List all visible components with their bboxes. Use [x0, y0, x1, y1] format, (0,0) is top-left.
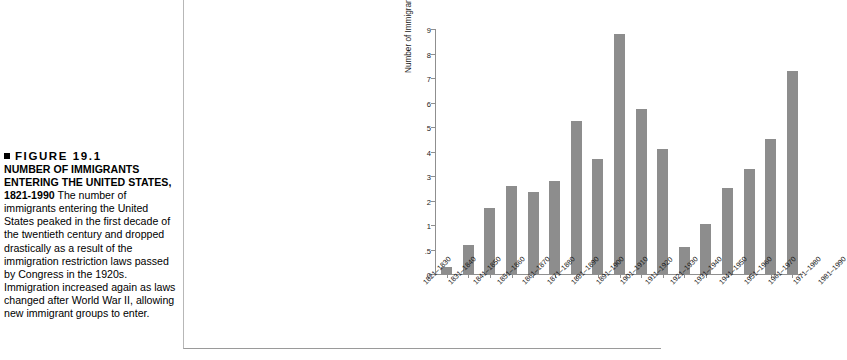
bar — [787, 71, 798, 274]
bar-slot — [609, 30, 631, 274]
immigration-bar-chart: Number of Immigrants (millions) 0.512345… — [408, 26, 828, 336]
bar — [614, 34, 625, 274]
y-axis-tick-label: 1 — [427, 222, 431, 231]
bar-slot — [566, 30, 588, 274]
bar-slot — [458, 30, 480, 274]
plot-area: 0.5123456789 — [435, 30, 803, 275]
bar — [722, 188, 733, 274]
bar — [571, 121, 582, 274]
x-label-slot: 1891–1900 — [581, 276, 606, 336]
bar-slot — [674, 30, 696, 274]
y-axis-tick-label: .5 — [425, 246, 431, 255]
bar-slot — [544, 30, 566, 274]
x-label-slot: 1911–1920 — [631, 276, 656, 336]
x-label-slot: 1881–1890 — [557, 276, 582, 336]
bar-slot — [717, 30, 739, 274]
caption-body: NUMBER OF IMMIGRANTS ENTERING THE UNITED… — [4, 163, 180, 320]
x-label-slot: 1941–1950 — [705, 276, 730, 336]
x-label-slot: 1841–1850 — [458, 276, 483, 336]
bar-slot — [630, 30, 652, 274]
figure-number: FIGURE 19.1 — [15, 150, 102, 162]
bar — [636, 109, 647, 274]
caption-description: The number of immigrants entering the Un… — [4, 189, 175, 319]
x-axis-labels: 1821–18301831–18401841–18501851–18601861… — [409, 276, 828, 336]
square-bullet-icon — [4, 153, 10, 159]
x-label-slot: 1951–1960 — [729, 276, 754, 336]
bar-slot — [652, 30, 674, 274]
x-label-slot: 1981–1990 — [803, 276, 828, 336]
y-axis-tick-label: 8 — [427, 50, 431, 59]
bar-slot — [695, 30, 717, 274]
bar-slot — [782, 30, 804, 274]
y-axis-tick-label: 7 — [427, 75, 431, 84]
x-label-slot: 1931–1940 — [680, 276, 705, 336]
x-label-slot: 1961–1970 — [754, 276, 779, 336]
y-axis-tick-label: 6 — [427, 99, 431, 108]
y-axis-tick-label: 3 — [427, 173, 431, 182]
x-label-slot: 1831–1840 — [434, 276, 459, 336]
bar-slot — [760, 30, 782, 274]
y-axis-tick-label: 9 — [427, 26, 431, 35]
bar-slot — [522, 30, 544, 274]
bar-series — [436, 30, 803, 274]
x-label-slot: 1821–1830 — [409, 276, 434, 336]
x-label-slot: 1971–1980 — [779, 276, 804, 336]
x-label-slot: 1861–1870 — [508, 276, 533, 336]
x-label-slot: 1871–1880 — [532, 276, 557, 336]
x-label-slot: 1901–1910 — [606, 276, 631, 336]
bar-slot — [738, 30, 760, 274]
y-axis-tick-label: 2 — [427, 197, 431, 206]
figure-caption: FIGURE 19.1 NUMBER OF IMMIGRANTS ENTERIN… — [4, 150, 180, 320]
bar-slot — [436, 30, 458, 274]
y-axis-tick-label: 5 — [427, 124, 431, 133]
bar-slot — [587, 30, 609, 274]
figure-label-line: FIGURE 19.1 — [4, 150, 180, 162]
figure-panel: Number of Immigrants (millions) 0.512345… — [183, 0, 661, 349]
bar-slot — [501, 30, 523, 274]
y-axis-label: Number of Immigrants (millions) — [404, 0, 413, 90]
x-label-slot: 1851–1860 — [483, 276, 508, 336]
y-axis-tick-label: 4 — [427, 148, 431, 157]
x-label-slot: 1921–1930 — [655, 276, 680, 336]
bar-slot — [479, 30, 501, 274]
